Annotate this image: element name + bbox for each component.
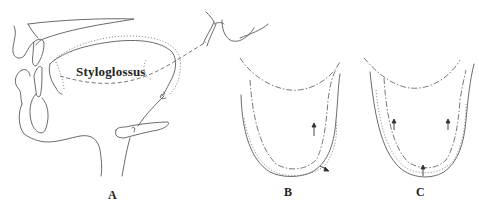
tongue-muscle-diagram: Styloglossus A B C [0,0,479,212]
diagram-canvas [0,0,479,212]
panel-c-label: C [416,185,425,200]
panel-a-label: A [108,188,117,203]
styloglossus-label: Styloglossus [76,64,146,80]
panel-a-drawing [13,12,254,176]
panel-c-drawing [364,58,474,177]
panel-b-label: B [284,185,292,200]
panel-b-drawing [240,24,340,177]
